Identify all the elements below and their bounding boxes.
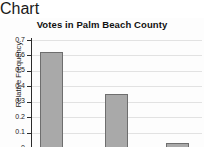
bar-chart-figure: Votes in Palm Beach County Relative Freq… xyxy=(0,18,204,147)
y-axis-tick-label: 0.2 xyxy=(0,113,25,120)
y-axis-tick-label: 0.6 xyxy=(0,51,25,58)
y-axis-tick-mark xyxy=(27,40,32,41)
y-axis-tick-label: 0.3 xyxy=(0,97,25,104)
y-axis-tick-mark xyxy=(27,133,32,134)
bar-nader xyxy=(166,143,189,147)
y-axis-tick-mark xyxy=(27,71,32,72)
y-axis-tick-mark xyxy=(27,86,32,87)
y-axis-title: Relative Frequency xyxy=(14,30,23,120)
chart-title: Votes in Palm Beach County xyxy=(0,19,204,30)
bar-bush xyxy=(105,94,128,147)
y-axis-line xyxy=(31,38,32,147)
y-axis-tick-mark xyxy=(27,55,32,56)
bar-gore xyxy=(40,52,63,147)
y-axis-tick-label: 0 xyxy=(0,144,25,148)
y-axis-tick-label: 0.4 xyxy=(0,82,25,89)
y-axis-tick-label: 0.1 xyxy=(0,128,25,135)
y-axis-tick-label: 0.5 xyxy=(0,66,25,73)
y-axis-tick-mark xyxy=(27,102,32,103)
y-axis-tick-mark xyxy=(27,117,32,118)
y-axis-tick-label: 0.7 xyxy=(0,36,25,43)
gridline xyxy=(32,40,202,41)
